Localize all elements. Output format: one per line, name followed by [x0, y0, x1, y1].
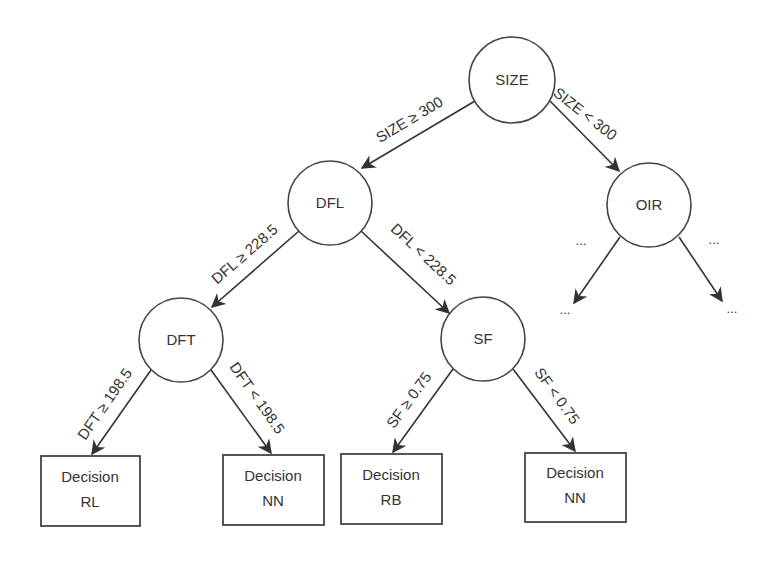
edge-label-sf-ge: SF ≥ 0.75 — [383, 369, 435, 432]
node-sf: SF — [441, 297, 525, 381]
edge-label-size-ge: SIZE ≥ 300 — [373, 93, 446, 146]
edge-label-dft-lt: DFT < 198.5 — [227, 359, 289, 437]
leaf-nn-1-line1: Decision — [244, 467, 302, 484]
node-dfl-label: DFL — [316, 194, 344, 211]
leaf-rb-line1: Decision — [362, 466, 420, 483]
leaf-box-rl — [41, 456, 140, 526]
leaf-nn-2-line2: NN — [564, 489, 586, 506]
leaf-decision-rb: Decision RB — [341, 454, 442, 524]
leaf-rl-line2: RL — [80, 493, 99, 510]
node-dft: DFT — [139, 298, 223, 382]
leaf-rb-line2: RB — [381, 491, 402, 508]
edge-label-sf-lt: SF < 0.75 — [531, 364, 583, 427]
node-dft-label: DFT — [166, 331, 195, 348]
ellipsis-oir-right-edge: ... — [709, 232, 720, 247]
edge-labels: SIZE ≥ 300 SIZE < 300 DFL ≥ 228.5 DFL < … — [74, 84, 738, 443]
ellipsis-oir-left-child: ... — [560, 302, 571, 317]
node-sf-label: SF — [473, 330, 492, 347]
node-size-label: SIZE — [495, 71, 528, 88]
ellipsis-oir-right-child: ... — [727, 301, 738, 316]
leaf-nn-2-line1: Decision — [546, 464, 604, 481]
edge-label-dfl-lt: DFL < 228.5 — [388, 220, 460, 289]
leaf-decision-nn-1: Decision NN — [223, 455, 324, 525]
node-oir-label: OIR — [636, 196, 663, 213]
leaf-decision-nn-2: Decision NN — [525, 453, 626, 522]
leaf-nn-1-line2: NN — [262, 492, 284, 509]
node-size: SIZE — [469, 37, 555, 123]
leaf-decision-rl: Decision RL — [41, 456, 140, 526]
edge-label-dft-ge: DFT ≥ 198.5 — [74, 365, 136, 443]
node-dfl: DFL — [288, 161, 372, 245]
ellipsis-oir-left-edge: ... — [576, 233, 587, 248]
leaf-rl-line1: Decision — [61, 468, 119, 485]
edge-label-size-lt: SIZE < 300 — [550, 84, 620, 144]
leaf-box-nn-1 — [223, 455, 324, 525]
edge-label-dfl-ge: DFL ≥ 228.5 — [208, 221, 281, 288]
node-oir: OIR — [607, 163, 691, 247]
decision-tree-diagram: SIZE ≥ 300 SIZE < 300 DFL ≥ 228.5 DFL < … — [0, 0, 772, 562]
leaf-box-rb — [341, 454, 442, 524]
